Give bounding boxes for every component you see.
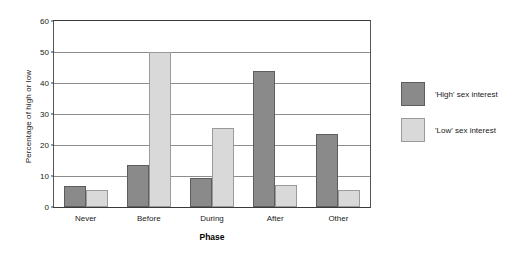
plot-area: 0102030405060NeverBeforeDuringAfterOther [53,20,371,208]
x-axis-title: Phase [53,232,371,242]
bar-before-low [149,52,171,207]
legend-label: 'Low' sex interest [435,126,496,135]
bar-never-high [64,186,86,207]
y-tick-label: 50 [40,48,49,57]
legend-swatch-low [401,118,425,142]
x-tick-label-other: Other [328,214,348,223]
y-tick-label: 0 [45,203,49,212]
x-tick-label-after: After [267,214,284,223]
y-tick-mark [51,21,54,22]
y-tick-label: 20 [40,141,49,150]
y-axis-title: Percentage of high or low [24,32,33,202]
y-tick-label: 60 [40,17,49,26]
y-tick-mark [51,83,54,84]
legend-label: 'High' sex interest [435,90,498,99]
bar-before-high [127,165,149,207]
bar-never-low [86,190,108,207]
y-tick-label: 40 [40,79,49,88]
x-tick-label-before: Before [137,214,161,223]
y-tick-mark [51,176,54,177]
y-tick-mark [51,145,54,146]
legend-item: 'High' sex interest [401,81,509,107]
x-tick-label-never: Never [75,214,96,223]
legend-swatch-high [401,82,425,106]
bar-other-low [338,190,360,207]
y-tick-label: 30 [40,110,49,119]
bar-during-low [212,128,234,207]
legend-item: 'Low' sex interest [401,117,509,143]
y-tick-mark [51,52,54,53]
gridline [54,114,370,115]
gridline [54,52,370,53]
bar-after-high [253,71,275,207]
bar-chart-figure: Percentage of high or low 0102030405060N… [0,0,510,256]
y-tick-mark [51,114,54,115]
x-tick-label-during: During [200,214,224,223]
y-tick-mark [51,207,54,208]
bar-during-high [190,178,212,207]
gridline [54,83,370,84]
bar-after-low [275,185,297,207]
chart-legend: 'High' sex interest'Low' sex interest [401,81,509,153]
y-tick-label: 10 [40,172,49,181]
bar-other-high [316,134,338,207]
